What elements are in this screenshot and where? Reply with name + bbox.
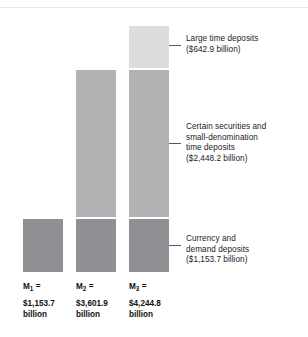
callout-certain-line-1: Certain securities and: [186, 122, 266, 133]
callout-large-time-deposits: Large time deposits ($642.9 billion): [186, 34, 258, 55]
chart-plot-area: Large time deposits ($642.9 billion) Cer…: [0, 0, 308, 337]
callout-currency-line-2: demand deposits: [186, 245, 249, 256]
axis-label-m2-equals: =: [89, 282, 94, 291]
bar-m3-segment-large-time-deposits: [129, 26, 169, 68]
bar-m2-segment-certain-securities: [76, 70, 116, 217]
axis-label-m1-equals: =: [36, 282, 41, 291]
axis-label-m3: M3 = $4,244.8 billion: [129, 282, 191, 320]
axis-label-m3-name: M3 =: [129, 282, 191, 293]
leader-line-large-time-deposits: [169, 45, 181, 46]
axis-label-m2-letter: M: [76, 282, 83, 291]
bar-m3: [129, 26, 169, 272]
axis-label-m1-letter: M: [23, 282, 30, 291]
axis-label-m3-value: $4,244.8: [129, 299, 191, 310]
axis-label-m1-subscript: 1: [30, 285, 34, 292]
bar-m1: [23, 219, 63, 272]
money-supply-stacked-bar-figure: Large time deposits ($642.9 billion) Cer…: [0, 0, 308, 337]
axis-label-m3-letter: M: [129, 282, 136, 291]
bar-m2-segment-currency-demand-deposits: [76, 219, 116, 272]
callout-large-line-2: ($642.9 billion): [186, 45, 258, 56]
axis-label-m3-equals: =: [142, 282, 147, 291]
leader-line-certain-securities: [169, 143, 181, 144]
leader-line-currency-demand-deposits: [169, 245, 181, 246]
callout-currency-demand-deposits: Currency and demand deposits ($1,153.7 b…: [186, 234, 249, 266]
axis-label-m3-subscript: 3: [136, 285, 140, 292]
callout-certain-securities: Certain securities and small-denominatio…: [186, 122, 266, 164]
bar-m1-segment-currency-demand-deposits: [23, 219, 63, 272]
axis-label-m2-subscript: 2: [83, 285, 87, 292]
axis-label-m3-unit: billion: [129, 310, 191, 321]
callout-certain-line-3: time deposits: [186, 143, 266, 154]
bar-m2: [76, 70, 116, 272]
callout-currency-line-1: Currency and: [186, 234, 249, 245]
bar-m3-segment-currency-demand-deposits: [129, 219, 169, 272]
bar-m3-segment-certain-securities: [129, 70, 169, 217]
callout-currency-line-3: ($1,153.7 billion): [186, 255, 249, 266]
callout-large-line-1: Large time deposits: [186, 34, 258, 45]
callout-certain-line-2: small-denomination: [186, 133, 266, 144]
callout-certain-line-4: ($2,448.2 billion): [186, 154, 266, 165]
